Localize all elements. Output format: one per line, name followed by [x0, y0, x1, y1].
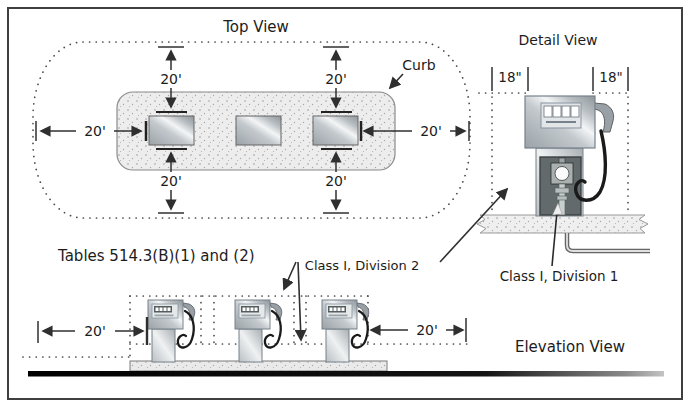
- dim-label: 20': [325, 173, 347, 189]
- detail-view-title: Detail View: [519, 32, 598, 48]
- display-digit-window: [571, 106, 579, 117]
- class-i-division-2-label: Class I, Division 2: [305, 258, 419, 273]
- dim-label: 18": [498, 69, 521, 85]
- elevation-view-title: Elevation View: [515, 338, 625, 356]
- dim-label: 18": [599, 69, 622, 85]
- dim-label: 20': [325, 71, 347, 87]
- diagram-page: Top View 20' 20' 20': [0, 0, 691, 408]
- island-band-stipple: [477, 215, 648, 233]
- display-digit-window: [544, 106, 552, 117]
- tables-note: Tables 514.3(B)(1) and (2): [57, 247, 255, 265]
- display-price-line: [546, 121, 576, 123]
- display-digit-window: [562, 106, 570, 117]
- pump-coupling: [557, 196, 567, 200]
- display-digit-window: [553, 106, 561, 117]
- top-view-title: Top View: [222, 18, 289, 36]
- pump-coupling: [555, 188, 569, 193]
- dim-label: 20': [160, 71, 182, 87]
- dim-label: 20': [84, 123, 106, 139]
- pump-sight-glass: [555, 167, 569, 181]
- dim-label: 20': [84, 323, 106, 339]
- dispenser-top-2: [236, 116, 281, 145]
- dim-label: 20': [160, 173, 182, 189]
- dim-label: 20': [416, 322, 438, 338]
- diagram-canvas: Top View 20' 20' 20': [0, 0, 691, 408]
- dispenser-top-3: [313, 116, 358, 145]
- class-i-division-1-label: Class I, Division 1: [500, 268, 619, 284]
- dispenser-top-1: [149, 116, 194, 145]
- dim-label: 20': [420, 123, 442, 139]
- curb-label: Curb: [402, 57, 435, 73]
- ground-line: [28, 371, 664, 377]
